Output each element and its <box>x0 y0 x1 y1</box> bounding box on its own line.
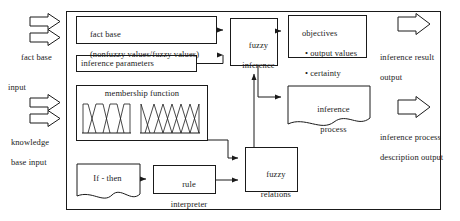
objectives-label: objectives • output values • certainty <box>293 18 357 88</box>
inference-process-output-line1: inference process <box>380 132 441 142</box>
objectives-bullet-1: • output values <box>302 48 357 58</box>
fuzzy-inference-line1: fuzzy <box>249 40 268 50</box>
inference-process-line2: process <box>320 124 346 134</box>
inference-process-output-line2: description output <box>380 152 443 162</box>
fuzzy-inference-line2: inference <box>242 60 275 70</box>
objectives-title: objectives <box>302 28 337 38</box>
fact-base-input-label-line2: input <box>2 82 62 92</box>
fuzzy-relations-label: fuzzy relations <box>246 159 297 209</box>
fuzzy-relations-line1: fuzzy <box>266 169 285 179</box>
knowledge-base-input-arrow-2 <box>30 111 60 127</box>
diagram-graphics <box>0 0 460 221</box>
objectives-bullet-2: • certainty <box>302 68 341 78</box>
fact-base-input-arrow-1 <box>30 14 60 30</box>
rule-interpreter-line1: rule <box>182 179 196 189</box>
knowledge-base-input-label-line1: knowledge <box>11 137 49 147</box>
knowledge-base-input-label-line2: base input <box>11 157 47 167</box>
inference-result-output-line2: output <box>380 72 402 82</box>
fuzzy-inference-label: fuzzy inference <box>231 30 277 80</box>
rule-interpreter-label: rule interpreter <box>154 169 215 219</box>
membership-function-label: membership function <box>77 88 207 98</box>
rule-interpreter-line2: interpreter <box>171 199 208 209</box>
fact-base-label-line1: fact base <box>90 29 121 39</box>
inference-result-output-line1: inference result <box>380 52 434 62</box>
fact-base-input-label: fact base input <box>2 42 62 112</box>
if-then-label: If - then <box>80 173 135 183</box>
knowledge-base-input-label: knowledge base input <box>2 127 66 177</box>
inference-parameters-label: inference parameters <box>81 58 154 68</box>
fact-base-input-label-line1: fact base <box>21 52 52 62</box>
inference-result-output-label: inference result output <box>371 42 460 92</box>
inference-process-output-label: inference process description output <box>371 122 460 172</box>
inference-process-label: inference process <box>289 94 369 144</box>
inference-process-line1: inference <box>317 104 350 114</box>
fuzzy-relations-line2: relations <box>261 189 291 199</box>
diagram-canvas: fact base input knowledge base input inf… <box>0 0 460 221</box>
